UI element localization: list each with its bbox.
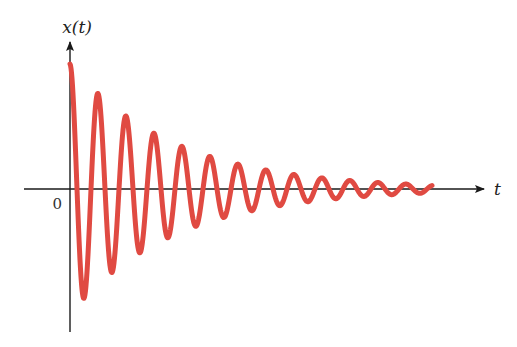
- x-axis-label: t: [494, 179, 501, 199]
- origin-label: 0: [52, 195, 62, 213]
- damped-oscillation-plot: x(t) t 0: [0, 0, 517, 347]
- damped-oscillation-curve: [70, 64, 432, 298]
- y-axis-label: x(t): [62, 17, 92, 37]
